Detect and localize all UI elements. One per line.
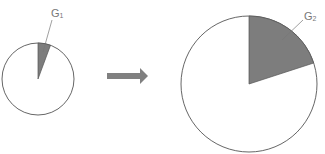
g2-label: G2 [304,10,317,22]
big-pie: G2 [181,10,317,152]
arrow-icon [107,68,148,84]
small-pie: G1 [2,7,74,115]
g1-label: G1 [51,7,64,19]
diagram: G1 G2 [0,0,325,154]
